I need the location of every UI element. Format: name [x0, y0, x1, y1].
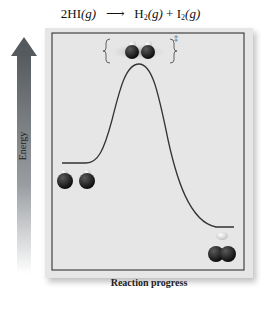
- iodine-atom-icon: [220, 246, 236, 262]
- iodine-atom-icon: [79, 173, 95, 189]
- plot-frame: [52, 33, 244, 270]
- transition-state: [103, 39, 177, 63]
- reactant-molecules: [57, 170, 95, 190]
- energy-curve: [62, 64, 234, 227]
- x-axis-label: Reaction progress: [45, 277, 253, 288]
- h2-molecule-icon: [216, 232, 228, 240]
- product-molecules: [208, 232, 236, 262]
- y-axis-label: Energy: [17, 126, 29, 166]
- iodine-atom-icon: [125, 45, 139, 59]
- iodine-atom-icon: [57, 173, 73, 189]
- energy-diagram: [0, 0, 261, 309]
- double-dagger-symbol: ‡: [174, 34, 178, 43]
- iodine-atom-icon: [141, 45, 155, 59]
